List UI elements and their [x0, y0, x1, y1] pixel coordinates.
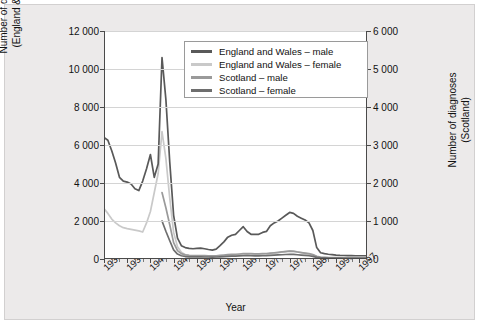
x-axis-minor-tickmark [344, 259, 345, 262]
right-axis-tickmark [367, 183, 371, 184]
left-axis-tick-label: 2 000 [41, 216, 99, 227]
x-axis-minor-tickmark [119, 259, 120, 262]
legend-swatch-icon [191, 50, 212, 53]
x-axis-minor-tickmark [251, 259, 252, 262]
x-axis-minor-tickmark [166, 259, 167, 262]
legend-item-label: Scotland – female [219, 85, 296, 96]
x-axis-minor-tickmark [112, 259, 113, 262]
right-axis-tick-label: 6 000 [373, 26, 431, 37]
legend-item-label: Scotland – male [219, 72, 288, 83]
legend-item: England and Wales – male [191, 45, 362, 58]
right-axis-tick-label: 2 000 [373, 178, 431, 189]
x-axis-minor-tickmark [236, 259, 237, 262]
right-axis-title-line2: (Scotland) [460, 97, 471, 143]
x-axis-minor-tickmark [189, 259, 190, 262]
right-axis-tickmark [367, 221, 371, 222]
right-axis-tick-label: 0 [373, 254, 431, 265]
left-axis-title-line1: Number of diagnoses [0, 0, 9, 54]
gridline [104, 107, 367, 108]
x-axis-minor-tickmark [274, 259, 275, 262]
legend-item: England and Wales – female [191, 58, 362, 71]
series-line [162, 221, 367, 258]
legend-item: Scotland – female [191, 84, 362, 97]
left-axis-tick-label: 0 [41, 254, 99, 265]
x-axis-minor-tickmark [352, 259, 353, 262]
x-axis-minor-tickmark [143, 259, 144, 262]
x-axis-minor-tickmark [367, 259, 368, 262]
x-axis-minor-tickmark [181, 259, 182, 262]
right-axis-tick-label: 3 000 [373, 140, 431, 151]
legend-item-label: England and Wales – female [219, 59, 341, 70]
x-axis-minor-tickmark [305, 259, 306, 262]
legend-item: Scotland – male [191, 71, 362, 84]
series-line [104, 132, 367, 258]
x-axis-minor-tickmark [259, 259, 260, 262]
x-axis-title: Year [104, 302, 367, 313]
y-axis-line-left [104, 31, 105, 259]
gridline [104, 31, 367, 32]
right-axis-title-line1: Number of diagnoses [447, 72, 458, 167]
x-axis-minor-tickmark [158, 259, 159, 262]
chart-page: 12 000 10 000 8 000 6 000 4 000 2 000 0 … [4, 4, 475, 320]
x-axis-minor-tickmark [212, 259, 213, 262]
chart-legend: England and Wales – maleEngland and Wale… [184, 41, 368, 98]
left-axis-title: Number of diagnoses (England & Wales) [0, 0, 23, 91]
x-axis-minor-tickmark [328, 259, 329, 262]
legend-swatch-icon [191, 89, 212, 92]
right-axis-tick-label: 5 000 [373, 64, 431, 75]
legend-item-label: England and Wales – male [219, 46, 333, 57]
x-axis-minor-tickmark [205, 259, 206, 262]
x-axis-line [104, 258, 367, 259]
gridline [104, 145, 367, 146]
right-axis-tickmark [367, 31, 371, 32]
legend-swatch-icon [191, 76, 212, 79]
left-axis-tick-label: 10 000 [41, 64, 99, 75]
legend-swatch-icon [191, 63, 212, 66]
x-axis-minor-tickmark [135, 259, 136, 262]
left-axis-tick-label: 8 000 [41, 102, 99, 113]
x-axis-minor-tickmark [321, 259, 322, 262]
left-axis-tick-label: 12 000 [41, 26, 99, 37]
right-axis-tick-label: 1 000 [373, 216, 431, 227]
right-axis-tickmark [367, 145, 371, 146]
x-axis-minor-tickmark [297, 259, 298, 262]
gridline [104, 221, 367, 222]
right-axis-title: Number of diagnoses (Scotland) [446, 35, 472, 205]
x-axis-minor-tickmark [282, 259, 283, 262]
left-axis-tick-label: 4 000 [41, 178, 99, 189]
right-axis-tick-label: 4 000 [373, 102, 431, 113]
left-axis-title-line2: (England & Wales) [11, 0, 22, 48]
left-axis-tick-label: 6 000 [41, 140, 99, 151]
x-axis-minor-tickmark [228, 259, 229, 262]
right-axis-tickmark [367, 107, 371, 108]
gridline [104, 183, 367, 184]
